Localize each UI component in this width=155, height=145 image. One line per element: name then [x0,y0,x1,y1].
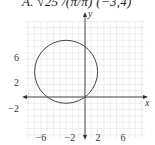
y-axis-arrow-up-icon [83,12,87,17]
x-tick-6: 6 [121,132,126,143]
x-tick-2: 2 [96,132,101,143]
y-axis-arrow-down-icon [83,135,87,140]
x-axis-arrow-left-icon [22,95,27,99]
y-tick-neg2: −2 [8,103,19,114]
x-axis-label: x [144,97,150,108]
y-tick-6: 6 [14,52,19,63]
y-tick-2: 2 [14,77,19,88]
y-axis-label: y [87,8,93,19]
x-tick-neg6: −6 [36,132,47,143]
x-tick-neg2: −2 [65,132,76,143]
coordinate-plane: y x −6 −2 2 6 6 2 −2 [0,0,155,145]
